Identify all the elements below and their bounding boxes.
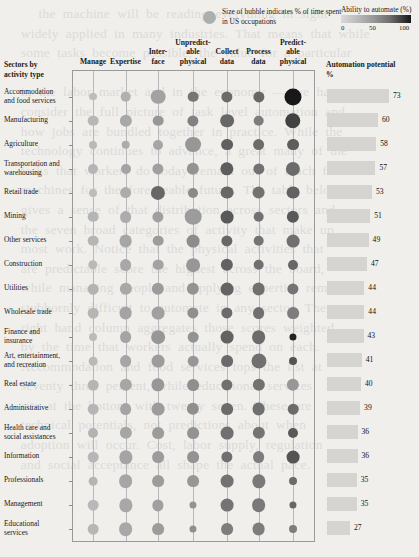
bubble-r4-c2 xyxy=(151,186,165,200)
sector-label-16-line-0: Professionals xyxy=(4,476,72,485)
automation-value-4: 53 xyxy=(376,187,384,197)
sector-label-14-line-0: Health care and xyxy=(4,423,72,432)
sector-label-0-line-0: Accommodation xyxy=(4,86,72,95)
automation-bar-8 xyxy=(327,281,364,295)
automation-value-11: 41 xyxy=(366,355,374,365)
sector-label-6-line-0: Other services xyxy=(4,235,72,244)
bubble-r5-c6 xyxy=(287,211,299,223)
automation-value-3: 57 xyxy=(379,163,387,173)
bubble-r10-c4 xyxy=(221,331,234,344)
automation-bar-1 xyxy=(327,113,378,127)
automation-value-17: 35 xyxy=(361,499,369,509)
bubble-r18-c3 xyxy=(189,526,196,533)
scale-mid-label: 50 xyxy=(369,24,376,31)
bubble-r5-c4 xyxy=(221,210,234,223)
bubble-r14-c1 xyxy=(119,427,131,439)
bubble-r5-c5 xyxy=(253,211,264,222)
bubble-r0-c5 xyxy=(253,91,264,102)
bubble-r8-c6 xyxy=(287,283,298,294)
sector-label-13: Administrative xyxy=(4,404,72,413)
bubble-r0-c0 xyxy=(89,93,97,101)
sector-label-17: Management xyxy=(4,500,72,509)
sector-label-4-line-0: Retail trade xyxy=(4,187,72,196)
sector-label-3: Transportation andwarehousing xyxy=(4,159,72,177)
automation-bar-6 xyxy=(327,233,369,247)
sector-label-2: Agriculture xyxy=(4,139,72,148)
automation-bar-3 xyxy=(327,161,375,175)
bubble-r10-c6 xyxy=(289,333,296,340)
bar-axis-title-line-1: Automation potential xyxy=(326,60,418,70)
bubble-r4-c3 xyxy=(188,188,198,198)
scale-max-label: 100 xyxy=(399,24,409,31)
bubble-r9-c3 xyxy=(187,307,198,318)
bubble-r16-c2 xyxy=(152,475,164,487)
bubble-r2-c1 xyxy=(121,140,130,149)
automation-value-8: 44 xyxy=(368,283,376,293)
row-axis-title-line-1: Sectors by xyxy=(4,60,70,70)
bubble-r7-c6 xyxy=(288,260,298,270)
bubble-r15-c6 xyxy=(287,451,300,464)
automation-value-18: 27 xyxy=(354,523,362,533)
automation-bar-18 xyxy=(327,521,350,535)
automation-bar-2 xyxy=(327,137,376,151)
bubble-r6-c0 xyxy=(88,235,99,246)
sector-label-4: Retail trade xyxy=(4,187,72,196)
row-axis-title: Sectors by activity type xyxy=(4,60,70,79)
chart-legend: Size of bubble indicates % of time spent… xyxy=(0,4,419,40)
bubble-r10-c5 xyxy=(252,330,266,344)
sector-label-9: Wholesale trade xyxy=(4,307,72,316)
sector-label-9-line-0: Wholesale trade xyxy=(4,307,72,316)
bubble-r15-c4 xyxy=(221,452,232,463)
automation-value-1: 60 xyxy=(382,115,390,125)
automation-value-0: 73 xyxy=(393,91,401,101)
automation-bar-13 xyxy=(327,401,360,415)
automatability-scale: 0 50 100 xyxy=(341,23,413,33)
row-axis-title-line-2: activity type xyxy=(4,70,70,80)
sector-label-3-line-0: Transportation and xyxy=(4,159,72,168)
sector-label-7: Construction xyxy=(4,259,72,268)
sector-label-13-line-0: Administrative xyxy=(4,404,72,413)
automation-value-12: 40 xyxy=(365,379,373,389)
sector-label-3-line-1: warehousing xyxy=(4,168,72,177)
bubble-r0-c6 xyxy=(284,88,301,105)
automation-value-2: 58 xyxy=(380,139,388,149)
bubble-r6-c6 xyxy=(287,234,300,247)
sector-label-12: Real estate xyxy=(4,380,72,389)
column-header-3-line-0: Unpredict- xyxy=(163,38,223,47)
sector-label-11: Art, entertainment,and recreation xyxy=(4,351,72,369)
bubble-r7-c5 xyxy=(253,260,264,271)
automation-bar-15 xyxy=(327,449,358,463)
automation-value-5: 51 xyxy=(374,211,382,221)
column-header-6-line-1: able xyxy=(263,47,323,56)
bubble-r10-c0 xyxy=(89,333,97,341)
sector-label-10: Finance andinsurance xyxy=(4,327,72,345)
bubble-r15-c0 xyxy=(88,452,99,463)
bubble-r11-c3 xyxy=(188,356,199,367)
sector-label-5: Mining xyxy=(4,211,72,220)
sector-label-5-line-0: Mining xyxy=(4,211,72,220)
bubble-r7-c2 xyxy=(153,260,164,271)
bubble-r18-c0 xyxy=(88,524,99,535)
bubble-r6-c2 xyxy=(153,235,164,246)
bubble-r9-c4 xyxy=(221,307,232,318)
bubble-r16-c5 xyxy=(252,475,265,488)
bar-axis-title: Automation potential % xyxy=(326,60,418,79)
bubble-r9-c0 xyxy=(88,308,99,319)
sector-label-11-line-1: and recreation xyxy=(4,360,72,369)
sector-label-6: Other services xyxy=(4,235,72,244)
bubble-r6-c3 xyxy=(187,234,200,247)
bubble-r13-c4 xyxy=(221,403,233,415)
bubble-legend-note: Size of bubble indicates % of time spent… xyxy=(222,7,342,26)
bubble-r8-c0 xyxy=(88,284,99,295)
bubble-r2-c6 xyxy=(287,139,299,151)
sector-label-8-line-0: Utilities xyxy=(4,283,72,292)
bubble-r15-c5 xyxy=(253,451,265,463)
sector-label-10-line-1: insurance xyxy=(4,336,72,345)
sector-label-7-line-0: Construction xyxy=(4,259,72,268)
sector-label-1-line-0: Manufacturing xyxy=(4,115,72,124)
bubble-r10-c3 xyxy=(188,332,199,343)
automation-bar-7 xyxy=(327,257,367,271)
sector-label-1: Manufacturing xyxy=(4,115,72,124)
automation-bar-11 xyxy=(327,353,362,367)
bubble-r2-c4 xyxy=(221,139,233,151)
